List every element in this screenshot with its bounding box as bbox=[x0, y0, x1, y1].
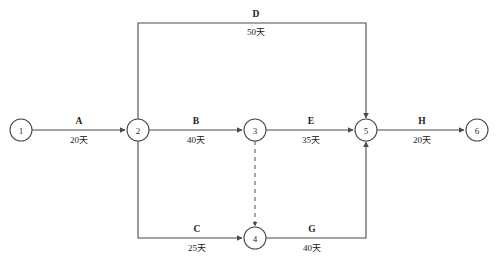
node-4[interactable]: 4 bbox=[244, 227, 266, 249]
node-3[interactable]: 3 bbox=[244, 119, 266, 141]
edge-E-label: E bbox=[308, 116, 314, 126]
network-diagram-canvas: A 20天 B 40天 E 35天 H 20天 D 50天 bbox=[0, 0, 500, 264]
edge-D-label: D bbox=[253, 9, 260, 19]
edge-A[interactable]: A 20天 bbox=[32, 116, 125, 145]
edge-D-line bbox=[138, 23, 366, 119]
edge-E[interactable]: E 35天 bbox=[266, 116, 353, 145]
node-2[interactable]: 2 bbox=[127, 119, 149, 141]
edge-G-duration: 40天 bbox=[303, 243, 321, 253]
edge-A-label: A bbox=[76, 116, 83, 126]
edge-C-duration: 25天 bbox=[188, 243, 206, 253]
node-3-label: 3 bbox=[253, 126, 258, 136]
edge-H[interactable]: H 20天 bbox=[377, 116, 464, 145]
edge-D-duration: 50天 bbox=[247, 27, 265, 37]
node-2-label: 2 bbox=[136, 126, 141, 136]
edge-A-duration: 20天 bbox=[70, 135, 88, 145]
edge-C-label: C bbox=[194, 224, 201, 234]
edge-G-line bbox=[266, 142, 366, 238]
edge-B-label: B bbox=[193, 116, 200, 126]
node-1[interactable]: 1 bbox=[10, 119, 32, 141]
node-6-label: 6 bbox=[475, 126, 480, 136]
edge-B-duration: 40天 bbox=[187, 135, 205, 145]
node-6[interactable]: 6 bbox=[466, 119, 488, 141]
node-5[interactable]: 5 bbox=[355, 119, 377, 141]
edge-B[interactable]: B 40天 bbox=[149, 116, 242, 145]
edge-C[interactable]: C 25天 bbox=[138, 141, 242, 253]
edge-G-label: G bbox=[308, 224, 316, 234]
node-1-label: 1 bbox=[19, 126, 24, 136]
edge-H-duration: 20天 bbox=[413, 135, 431, 145]
network-diagram-svg: A 20天 B 40天 E 35天 H 20天 D 50天 bbox=[0, 0, 500, 264]
edge-E-duration: 35天 bbox=[302, 135, 320, 145]
edge-D[interactable]: D 50天 bbox=[138, 9, 366, 119]
node-5-label: 5 bbox=[364, 126, 369, 136]
edge-H-label: H bbox=[418, 116, 426, 126]
edge-G[interactable]: G 40天 bbox=[266, 142, 366, 253]
node-4-label: 4 bbox=[253, 234, 258, 244]
edge-C-line bbox=[138, 141, 242, 238]
